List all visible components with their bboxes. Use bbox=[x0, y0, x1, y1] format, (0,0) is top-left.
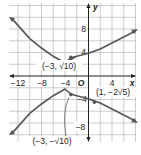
vertex-upper-point bbox=[69, 56, 73, 60]
svg-text:8: 8 bbox=[81, 24, 86, 34]
annotation-upper-vertex: (−3, √10) bbox=[42, 61, 76, 71]
hyperbola-graph: −12 −8 −4 4 O x y 8 4 −4 −8 (−3, √10) (1… bbox=[0, 0, 141, 155]
svg-text:−8: −8 bbox=[76, 122, 86, 132]
svg-text:−4: −4 bbox=[61, 78, 71, 88]
svg-text:−8: −8 bbox=[37, 78, 47, 88]
svg-text:−12: −12 bbox=[11, 78, 26, 88]
annotation-lower-vertex: (−3, −√10) bbox=[32, 136, 71, 146]
point-1-neg2sqrt5 bbox=[93, 101, 97, 105]
origin-label: O bbox=[78, 78, 85, 88]
vertex-lower-point bbox=[69, 93, 73, 97]
annotation-point: (1, −2√5) bbox=[96, 87, 130, 97]
